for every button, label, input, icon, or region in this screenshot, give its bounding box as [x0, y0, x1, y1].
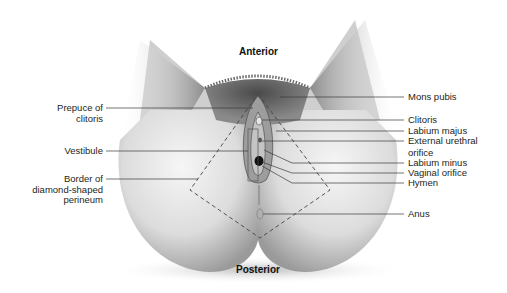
label-anus: Anus	[408, 209, 430, 220]
anatomy-figure: Anterior Posterior Prepuce of clitoris V…	[0, 0, 507, 293]
label-vestibule: Vestibule	[64, 146, 103, 157]
label-mons-pubis: Mons pubis	[408, 92, 457, 103]
clitoris-shape	[256, 117, 262, 125]
left-buttock	[118, 110, 258, 272]
vaginal-orifice-shape	[255, 156, 264, 166]
anus-shape	[257, 209, 263, 219]
label-prepuce-of-clitoris: Prepuce of clitoris	[57, 103, 103, 124]
urethral-orifice	[258, 138, 262, 143]
anterior-label: Anterior	[239, 46, 278, 57]
label-border-of-perineum: Border of diamond-shaped perineum	[32, 174, 103, 206]
label-hymen: Hymen	[408, 178, 438, 189]
label-clitoris: Clitoris	[408, 115, 437, 126]
posterior-label: Posterior	[236, 264, 280, 275]
label-external-urethral-orifice: External urethral orifice	[408, 136, 478, 158]
